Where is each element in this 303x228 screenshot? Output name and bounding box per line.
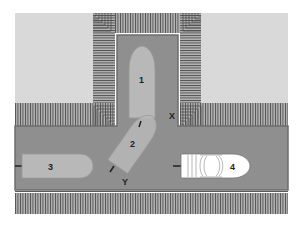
- point-y-label: Y: [122, 177, 128, 187]
- boat-3-label: 3: [48, 162, 53, 172]
- land-top-right: [201, 13, 288, 103]
- boat-1-label: 1: [139, 75, 144, 85]
- docking-diagram: 1 2 3 4 X Y: [0, 0, 303, 228]
- boat-4: 4: [173, 154, 250, 178]
- boat-2-label: 2: [130, 139, 135, 149]
- land-top-left: [15, 13, 93, 103]
- channel-dock-lower: [15, 193, 288, 214]
- point-x-label: X: [169, 111, 175, 121]
- boat-1: 1: [129, 46, 155, 118]
- boat-4-label: 4: [230, 162, 235, 172]
- boat-3: 3: [15, 154, 93, 178]
